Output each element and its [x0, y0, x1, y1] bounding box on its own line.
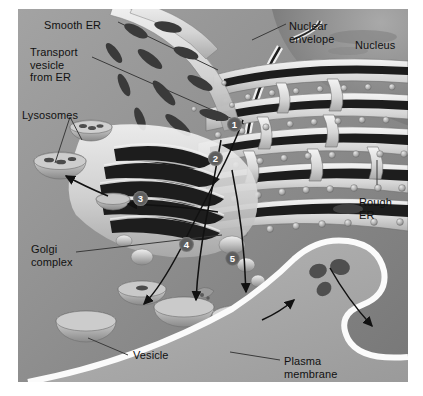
step-badge-3: 3 [133, 191, 148, 206]
step-badge-5: 5 [225, 251, 240, 266]
label-nuclear-envelope: Nuclear envelope [289, 20, 351, 45]
label-golgi-complex: Golgi complex [31, 243, 73, 268]
label-lysosomes: Lysosomes [22, 109, 78, 122]
cell-diagram-figure: Smooth ER Transport vesicle from ER Lyso… [0, 0, 423, 396]
label-plasma-membrane: Plasma membrane [284, 355, 356, 380]
label-vesicle: Vesicle [133, 349, 169, 362]
label-transport-vesicle: Transport vesicle from ER [30, 46, 78, 84]
label-nucleus: Nucleus [355, 39, 395, 52]
label-rough-er: Rough ER [359, 196, 392, 221]
step-badge-1: 1 [227, 117, 242, 132]
step-badge-4: 4 [179, 237, 194, 252]
step-badge-2: 2 [208, 151, 223, 166]
label-smooth-er: Smooth ER [44, 19, 101, 32]
